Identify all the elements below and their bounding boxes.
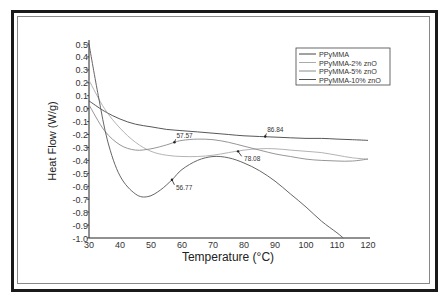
x-axis-label: Temperature (°C) [182,250,274,264]
annotation-arrowhead [237,150,239,152]
annotation-arrowhead [171,179,173,181]
y-tick-label: -0.7 [72,195,88,205]
y-tick-label: -1.0 [72,234,88,244]
y-tick-label: 0.1 [75,91,88,101]
annotation-label: 56.77 [176,184,193,191]
chart-legend: PPyMMAPPyMMA-2% znOPPyMMA-5% znOPPyMMA-1… [296,48,390,85]
y-tick-label: 0.4 [75,52,88,62]
series-line-1 [89,80,368,159]
chart-annotations: 57.5786.8478.0856.77 [171,126,284,190]
y-tick-label: 0.0 [75,104,88,114]
annotation-arrowhead [264,135,266,137]
y-tick-label: -0.1 [72,117,88,127]
y-tick-label: -0.8 [72,208,88,218]
annotation-label: 78.08 [244,155,261,162]
y-tick-label: -0.5 [72,169,88,179]
x-tick-label: 50 [146,240,156,250]
x-tick-label: 100 [298,240,313,250]
y-tick-label: 0.5 [75,40,88,50]
y-axis-label: Heat Flow (W/g) [46,101,58,180]
y-tick-label: -0.9 [72,221,88,231]
annotation-arrowhead [173,141,175,143]
y-tick-label: -0.2 [72,130,88,140]
y-tick-label: 0.2 [75,78,88,88]
legend-label: PPyMMA-10% znO [319,76,381,85]
y-tick-label: -0.4 [72,156,88,166]
y-tick-label: -0.6 [72,182,88,192]
dsc-line-chart: 304050607080901001101200.50.40.30.20.10.… [0,0,445,302]
x-tick-label: 40 [115,240,125,250]
x-tick-label: 60 [177,240,187,250]
annotation-label: 86.84 [267,126,284,133]
x-tick-label: 80 [239,240,249,250]
x-tick-label: 90 [270,240,280,250]
y-tick-label: -0.3 [72,143,88,153]
x-tick-label: 110 [330,240,344,250]
series-line-0 [89,101,368,140]
x-tick-label: 120 [360,240,375,250]
annotation-label: 57.57 [176,132,193,139]
y-tick-label: 0.3 [75,65,88,75]
x-tick-label: 70 [208,240,218,250]
